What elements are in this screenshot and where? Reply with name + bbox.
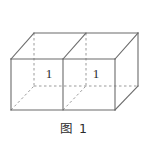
figure-caption: 图 1 — [0, 118, 148, 137]
edge-top-left-diagonal — [11, 33, 34, 59]
hidden-edges-group — [11, 33, 138, 110]
hidden-edge-bottom-mid-diagonal — [63, 86, 86, 110]
figure-container: 1 1 图 1 — [0, 0, 148, 144]
face-labels-group: 1 1 — [46, 66, 100, 81]
edge-top-right-diagonal — [115, 33, 138, 59]
edge-bottom-right-diagonal — [115, 86, 138, 110]
hidden-edge-bottom-left-diagonal — [11, 86, 34, 110]
edge-top-mid-diagonal — [63, 33, 86, 59]
label-front-left-face: 1 — [46, 66, 53, 81]
label-front-right-face: 1 — [93, 66, 100, 81]
